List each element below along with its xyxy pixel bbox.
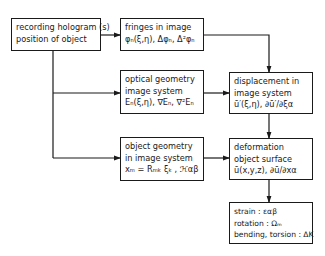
node-text: image system [234,88,308,100]
node-text: object surface [234,154,308,166]
node-text: bending, torsion : ΔK [234,229,308,241]
node-fringes-in-image: fringes in image φₙ(ξ,η), Δφₙ, Δ²φₙ [120,18,204,51]
node-text: in image system [125,153,199,165]
node-text: optical geometry [125,74,199,86]
node-text: recording hologram (s) [16,22,96,34]
node-text: displacement in [234,76,308,88]
node-text: Eₙ(ξ,η), ∇Eₙ, ∇²Eₙ [125,97,199,109]
node-text: image system [125,86,199,98]
node-strain-rotation-bending: strain : εαβ rotation : Ωₘ bending, tors… [229,202,313,244]
node-text: deformation [234,142,308,154]
node-displacement-image-system: displacement in image system ū′(ξ,η), ∂ū… [229,72,313,114]
node-recording-hologram: recording hologram (s) position of objec… [11,18,101,51]
node-text: ū(x,y,z), ∂ū/∂xα [234,165,308,177]
node-text: rotation : Ωₘ [234,218,308,230]
node-deformation-object-surface: deformation object surface ū(x,y,z), ∂ū/… [229,138,313,180]
edge-fringes-displacement [203,35,269,72]
node-text: ū′(ξ,η), ∂ū′/∂ξα [234,99,308,111]
node-text: strain : εαβ [234,206,308,218]
node-text: object geometry [125,141,199,153]
node-text: fringes in image [125,22,199,34]
node-text: position of object [16,34,96,46]
node-optical-geometry: optical geometry image system Eₙ(ξ,η), ∇… [120,70,204,114]
node-text: φₙ(ξ,η), Δφₙ, Δ²φₙ [125,34,199,46]
node-text: xₘ = Rₘₖ ξₖ , ℋαβ [125,164,199,176]
node-object-geometry: object geometry in image system xₘ = Rₘₖ… [120,137,204,181]
